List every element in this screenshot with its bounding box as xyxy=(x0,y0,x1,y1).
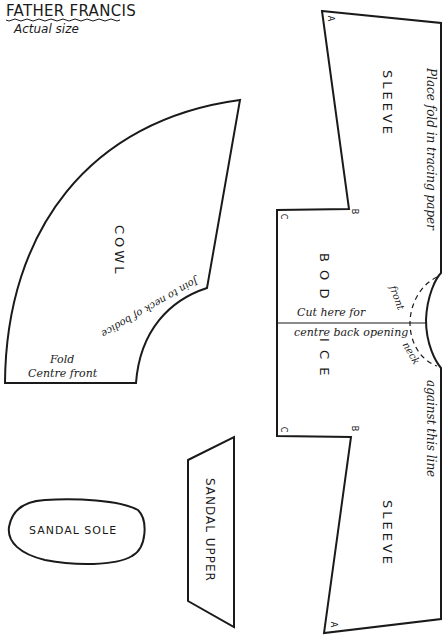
fold-instruction-bottom: against this line xyxy=(424,380,438,477)
sandal-upper-label: SANDAL UPPER xyxy=(203,478,217,582)
sleeve-bottom-label: SLEEVE xyxy=(380,500,395,567)
corner-mark-a-top: A xyxy=(326,16,335,21)
sandal-sole-label: SANDAL SOLE xyxy=(29,524,117,537)
cut-line-text-2: centre back opening xyxy=(294,326,408,339)
corner-mark-b-top: B xyxy=(350,209,359,215)
corner-mark-c-bottom: C xyxy=(279,427,288,433)
bodice-label-part1: B O D xyxy=(317,253,332,300)
pattern-sheet: FATHER FRANCIS Actual size A B C C B A S… xyxy=(0,0,445,642)
cowl-fold-text-2: Centre front xyxy=(28,367,97,380)
cowl-label: COWL xyxy=(112,225,127,276)
corner-mark-b-bottom: B xyxy=(350,426,359,432)
cut-line-text-1: Cut here for xyxy=(297,306,365,319)
corner-mark-a-bottom: A xyxy=(329,622,338,627)
fold-instruction-top: Place fold in tracing paper xyxy=(424,68,438,230)
sleeve-top-label: SLEEVE xyxy=(380,70,395,137)
page-title: FATHER FRANCIS xyxy=(6,2,136,20)
bodice-label-part2: I C E xyxy=(317,338,332,377)
page-subtitle: Actual size xyxy=(14,22,79,36)
corner-mark-c-top: C xyxy=(279,214,288,220)
bodice-sleeve-outline xyxy=(277,11,441,633)
cowl-fold-text-1: Fold xyxy=(50,353,74,366)
pattern-outlines xyxy=(0,0,445,642)
